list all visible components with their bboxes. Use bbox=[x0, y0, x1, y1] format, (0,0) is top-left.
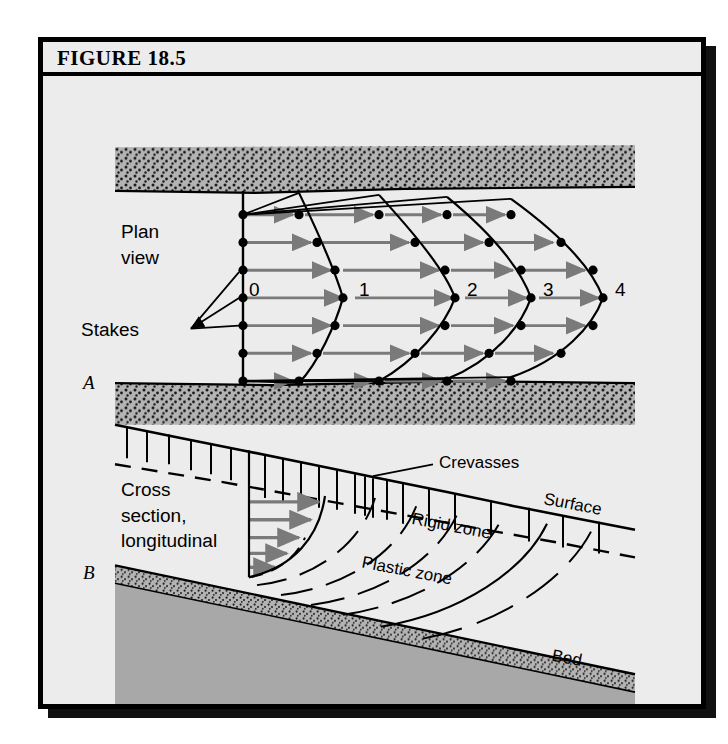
stake-line-number-2: 2 bbox=[467, 279, 478, 300]
figure-canvas: 0 1 2 3 4 Plan view Stakes A bbox=[43, 76, 701, 704]
stake-line-number-1: 1 bbox=[359, 279, 370, 300]
panel-label-b: B bbox=[83, 562, 95, 583]
glacier-diagram: 0 1 2 3 4 Plan view Stakes A bbox=[43, 76, 701, 704]
cross-section-velocity-arrows bbox=[249, 502, 319, 567]
rigid-zone-label: Rigid zone bbox=[410, 509, 492, 543]
crevasses-label: Crevasses bbox=[439, 453, 519, 472]
stakes-leader-line bbox=[191, 272, 239, 328]
plan-lower-rock-band bbox=[115, 381, 635, 425]
stakes-label: Stakes bbox=[81, 319, 139, 340]
plan-upper-rock-band bbox=[115, 145, 635, 193]
cross-section-label-line2: section, bbox=[121, 505, 186, 526]
cross-section-label-line3: longitudinal bbox=[121, 531, 217, 552]
bed-mass bbox=[115, 565, 635, 704]
plan-view-label-line2: view bbox=[121, 247, 159, 268]
glacier-surface-line bbox=[115, 425, 635, 530]
plan-view-panel: 0 1 2 3 4 Plan view Stakes A bbox=[81, 145, 635, 424]
cross-section-label-line1: Cross bbox=[121, 479, 171, 500]
cross-section-panel: Crevasses Surface Rigid zone Plastic zon… bbox=[83, 425, 635, 704]
crevasses-leader-line bbox=[373, 464, 433, 476]
plastic-zone-label: Plastic zone bbox=[360, 553, 454, 589]
panel-label-a: A bbox=[81, 372, 95, 393]
plan-view-label-line1: Plan bbox=[121, 222, 159, 243]
figure-title: FIGURE 18.5 bbox=[57, 46, 186, 71]
figure-frame: FIGURE 18.5 bbox=[38, 37, 706, 709]
velocity-profile-dashed bbox=[249, 538, 305, 578]
figure-title-bar: FIGURE 18.5 bbox=[43, 42, 701, 76]
stake-line-number-3: 3 bbox=[543, 279, 554, 300]
stake-line-number-0: 0 bbox=[249, 279, 260, 300]
stake-line-number-4: 4 bbox=[615, 279, 626, 300]
figure-page: FIGURE 18.5 bbox=[0, 0, 728, 744]
